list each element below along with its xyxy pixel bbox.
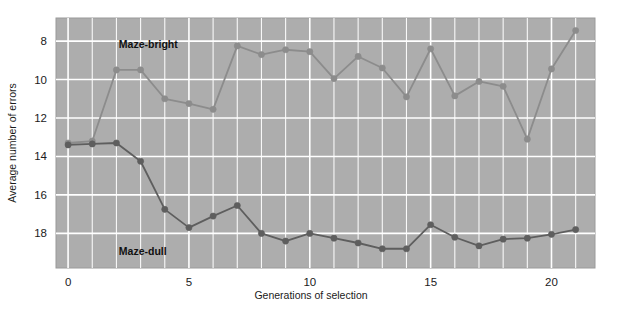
line-chart: 05101520 81012141618 Maze-brightMaze-dul… (0, 0, 622, 316)
series-label-maze-bright: Maze-bright (119, 38, 178, 50)
data-point (113, 67, 119, 73)
data-point (162, 96, 168, 102)
data-point (258, 230, 264, 236)
data-point (573, 226, 579, 232)
data-point (403, 94, 409, 100)
data-point (524, 235, 530, 241)
chart-figure: 05101520 81012141618 Maze-brightMaze-dul… (0, 0, 622, 316)
data-point (500, 83, 506, 89)
y-axis-title: Average number of errors (6, 83, 18, 202)
data-point (307, 49, 313, 55)
data-point (355, 53, 361, 59)
data-point (234, 202, 240, 208)
data-point (186, 225, 192, 231)
data-point (210, 213, 216, 219)
plot-background (56, 18, 595, 268)
data-point (548, 231, 554, 237)
y-tick-label: 18 (34, 227, 47, 239)
data-point (548, 66, 554, 72)
y-tick-label: 8 (41, 35, 47, 47)
data-point (65, 142, 71, 148)
data-point (258, 51, 264, 57)
data-point (379, 65, 385, 71)
data-point (162, 206, 168, 212)
y-tick-label: 16 (34, 189, 47, 201)
y-tick-label: 12 (34, 112, 47, 124)
data-point (138, 158, 144, 164)
data-point (573, 27, 579, 33)
series-label-maze-dull: Maze-dull (119, 245, 167, 257)
data-point (428, 46, 434, 52)
data-point (210, 106, 216, 112)
data-point (452, 234, 458, 240)
data-point (379, 246, 385, 252)
data-point (307, 230, 313, 236)
data-point (476, 243, 482, 249)
y-tick-label: 14 (34, 150, 47, 162)
data-point (355, 240, 361, 246)
data-point (283, 47, 289, 53)
data-point (138, 67, 144, 73)
data-point (331, 75, 337, 81)
data-point (500, 236, 506, 242)
x-tick-label: 15 (424, 276, 437, 288)
x-tick-label: 10 (303, 276, 316, 288)
data-point (403, 246, 409, 252)
data-point (113, 140, 119, 146)
x-axis-title: Generations of selection (254, 289, 367, 301)
data-point (234, 43, 240, 49)
x-tick-label: 0 (65, 276, 71, 288)
data-point (283, 238, 289, 244)
y-tick-label: 10 (34, 74, 47, 86)
data-point (186, 100, 192, 106)
data-point (476, 78, 482, 84)
x-tick-label: 20 (545, 276, 558, 288)
data-point (331, 235, 337, 241)
data-point (524, 136, 530, 142)
grid-minor-lines (92, 18, 575, 268)
data-point (452, 93, 458, 99)
data-point (89, 141, 95, 147)
data-point (428, 222, 434, 228)
x-tick-label: 5 (186, 276, 192, 288)
